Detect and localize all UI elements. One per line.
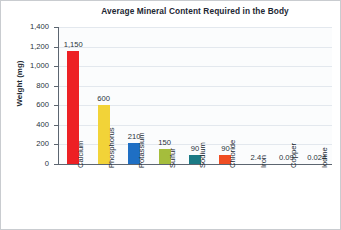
category-label: Copper xyxy=(290,143,298,168)
bar-value-label: 600 xyxy=(82,95,126,103)
bar-value-label: 90 xyxy=(203,145,247,153)
bar-chart-figure: Average Mineral Content Required in the … xyxy=(0,0,341,230)
category-label: Sulfur xyxy=(169,148,177,168)
category-label: Phosphorus xyxy=(108,127,116,168)
y-tick-mark xyxy=(54,27,58,28)
y-tick-label: 1,400 xyxy=(5,23,49,31)
y-tick-mark xyxy=(54,125,58,126)
category-label: Iron xyxy=(260,155,268,168)
category-label: Potassium xyxy=(138,133,146,168)
y-tick-label: 1,200 xyxy=(5,43,49,51)
gridline xyxy=(58,86,332,87)
gridline xyxy=(58,66,332,67)
category-label: Iodine xyxy=(321,147,329,168)
gridline xyxy=(58,47,332,48)
y-tick-mark xyxy=(54,86,58,87)
y-tick-label: 400 xyxy=(5,121,49,129)
y-tick-label: 600 xyxy=(5,101,49,109)
y-tick-label: 1,000 xyxy=(5,62,49,70)
category-label: Sodium xyxy=(199,142,207,168)
chart-title: Average Mineral Content Required in the … xyxy=(58,6,332,17)
bar-value-label: 1,150 xyxy=(51,41,95,49)
gridline xyxy=(58,27,332,28)
category-label: Chloride xyxy=(229,140,237,168)
category-label: Calcium xyxy=(77,141,85,168)
y-tick-label: 200 xyxy=(5,140,49,148)
y-tick-mark xyxy=(54,105,58,106)
bar-value-label: 0.024 xyxy=(295,154,339,162)
y-tick-mark xyxy=(54,66,58,67)
y-tick-mark xyxy=(54,144,58,145)
y-tick-mark xyxy=(54,164,58,165)
y-tick-label: 800 xyxy=(5,82,49,90)
y-tick-label: 0 xyxy=(5,160,49,168)
